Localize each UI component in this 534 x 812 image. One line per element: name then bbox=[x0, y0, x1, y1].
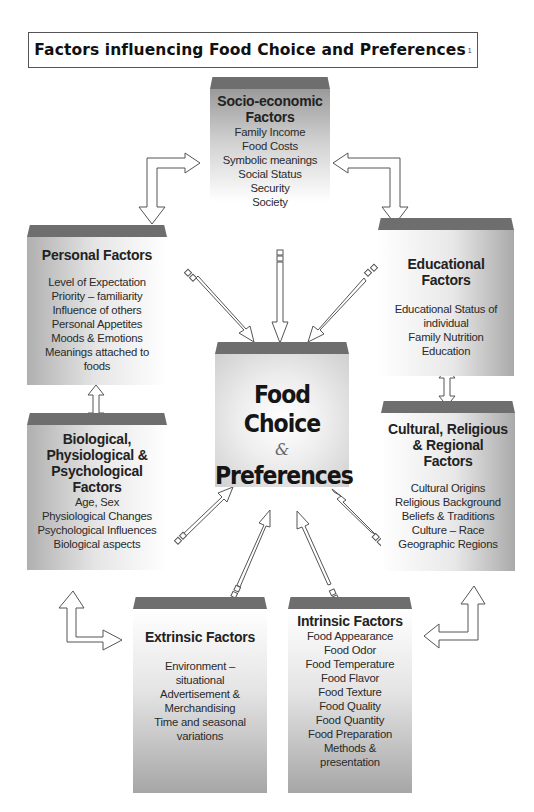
socio-heading-line1: Socio-economic bbox=[210, 93, 330, 109]
intrinsic-item: Food Appearance bbox=[288, 629, 412, 643]
biological-item: Psychological Influences bbox=[27, 523, 167, 537]
educational-item: Family Nutrition bbox=[378, 330, 514, 344]
ampersand: & bbox=[215, 440, 349, 459]
extrinsic-factors-box: Extrinsic Factors Environment – situatio… bbox=[133, 597, 267, 793]
arrow-socio-to-center bbox=[272, 262, 288, 343]
intrinsic-heading: Intrinsic Factors bbox=[288, 613, 412, 629]
title-footnote: 1 bbox=[468, 47, 472, 54]
extrinsic-item: situational bbox=[133, 673, 267, 687]
personal-item: Moods & Emotions bbox=[27, 331, 167, 345]
intrinsic-item: Methods & bbox=[288, 741, 412, 755]
arrow-intrinsic-to-center bbox=[297, 511, 331, 585]
personal-heading: Personal Factors bbox=[27, 247, 167, 263]
arrow-extrinsic-to-center bbox=[237, 510, 270, 587]
educational-items: Educational Status of individual Family … bbox=[378, 302, 514, 358]
elbow-arrow-biological-extrinsic bbox=[59, 591, 122, 650]
intrinsic-items: Food Appearance Food Odor Food Temperatu… bbox=[288, 629, 412, 769]
box-cap bbox=[215, 342, 349, 354]
personal-item: Priority – familiarity bbox=[27, 289, 167, 303]
elbow-arrow-socio-personal bbox=[139, 153, 200, 224]
box-cap bbox=[210, 77, 330, 89]
extrinsic-item: Environment – bbox=[133, 659, 267, 673]
arrow-cultural-to-center bbox=[332, 489, 375, 534]
socio-item: Social Status bbox=[210, 167, 330, 181]
arrow-educational-to-center bbox=[308, 278, 366, 342]
personal-item: Personal Appetites bbox=[27, 317, 167, 331]
educational-item: Education bbox=[378, 344, 514, 358]
socio-item: Food Costs bbox=[210, 139, 330, 153]
biological-item: Biological aspects bbox=[27, 537, 167, 551]
socio-item: Security bbox=[210, 181, 330, 195]
educational-heading-line2: Factors bbox=[378, 272, 514, 288]
personal-item: foods bbox=[27, 359, 167, 373]
intrinsic-item: Food Quantity bbox=[288, 713, 412, 727]
personal-item: Influence of others bbox=[27, 303, 167, 317]
biological-item: Age, Sex bbox=[27, 495, 167, 509]
diagram-title: Factors influencing Food Choice and Pref… bbox=[34, 41, 465, 59]
personal-items: Level of Expectation Priority – familiar… bbox=[27, 275, 167, 373]
extrinsic-items: Environment – situational Advertisement … bbox=[133, 659, 267, 743]
educational-item: individual bbox=[378, 316, 514, 330]
arrow-biological-to-center bbox=[182, 487, 233, 538]
intrinsic-item: Food Temperature bbox=[288, 657, 412, 671]
intrinsic-item: Food Texture bbox=[288, 685, 412, 699]
extrinsic-item: Time and seasonal bbox=[133, 715, 267, 729]
personal-item: Meanings attached to bbox=[27, 345, 167, 359]
educational-heading-line1: Educational bbox=[378, 256, 514, 272]
socio-item: Family Income bbox=[210, 125, 330, 139]
extrinsic-item: Merchandising bbox=[133, 701, 267, 715]
biological-item: Physiological Changes bbox=[27, 509, 167, 523]
diagram-title-box: Factors influencing Food Choice and Pref… bbox=[28, 32, 478, 68]
extrinsic-item: Advertisement & bbox=[133, 687, 267, 701]
biological-heading-line2: Physiological & bbox=[27, 447, 167, 463]
extrinsic-item: variations bbox=[133, 729, 267, 743]
cultural-items: Cultural Origins Religious Background Be… bbox=[381, 481, 515, 551]
socio-items: Family Income Food Costs Symbolic meanin… bbox=[210, 125, 330, 209]
center-title-line1: Food Choice bbox=[215, 380, 349, 438]
center-title-line2: Preferences bbox=[215, 461, 349, 490]
educational-item: Educational Status of bbox=[378, 302, 514, 316]
cultural-heading-line1: Cultural, Religious bbox=[381, 421, 515, 437]
socio-economic-factors-box: Socio-economic Factors Family Income Foo… bbox=[210, 77, 330, 202]
educational-factors-box: Educational Factors Educational Status o… bbox=[378, 218, 514, 376]
cultural-item: Religious Background bbox=[381, 495, 515, 509]
box-cap bbox=[27, 225, 167, 237]
cultural-factors-box: Cultural, Religious & Regional Factors C… bbox=[381, 401, 515, 571]
biological-items: Age, Sex Physiological Changes Psycholog… bbox=[27, 495, 167, 551]
intrinsic-item: Food Quality bbox=[288, 699, 412, 713]
arrow-personal-to-center bbox=[196, 276, 254, 342]
biological-heading-line1: Biological, bbox=[27, 431, 167, 447]
box-cap bbox=[381, 401, 515, 413]
box-cap bbox=[288, 597, 412, 609]
socio-item: Symbolic meanings bbox=[210, 153, 330, 167]
socio-item: Society bbox=[210, 195, 330, 209]
personal-factors-box: Personal Factors Level of Expectation Pr… bbox=[27, 225, 167, 385]
biological-heading-line3: Psychological bbox=[27, 463, 167, 479]
cultural-item: Cultural Origins bbox=[381, 481, 515, 495]
cultural-heading-line2: & Regional bbox=[381, 437, 515, 453]
biological-heading-line4: Factors bbox=[27, 479, 167, 495]
personal-item: Level of Expectation bbox=[27, 275, 167, 289]
box-cap bbox=[378, 218, 514, 230]
intrinsic-item: Food Odor bbox=[288, 643, 412, 657]
cultural-heading-line3: Factors bbox=[381, 453, 515, 469]
extrinsic-heading: Extrinsic Factors bbox=[133, 629, 267, 645]
intrinsic-factors-box: Intrinsic Factors Food Appearance Food O… bbox=[288, 597, 412, 793]
box-cap bbox=[27, 413, 167, 425]
elbow-arrow-cultural-intrinsic bbox=[424, 586, 485, 648]
intrinsic-item: Food Preparation bbox=[288, 727, 412, 741]
biological-factors-box: Biological, Physiological & Psychologica… bbox=[27, 413, 167, 570]
cultural-item: Culture – Race bbox=[381, 523, 515, 537]
intrinsic-item: presentation bbox=[288, 755, 412, 769]
socio-heading-line2: Factors bbox=[210, 109, 330, 125]
intrinsic-item: Food Flavor bbox=[288, 671, 412, 685]
cultural-item: Beliefs & Traditions bbox=[381, 509, 515, 523]
food-choice-center-box: Food Choice & Preferences bbox=[215, 342, 349, 487]
box-cap bbox=[133, 597, 267, 609]
cultural-item: Geographic Regions bbox=[381, 537, 515, 551]
elbow-arrow-socio-educational bbox=[333, 153, 408, 224]
